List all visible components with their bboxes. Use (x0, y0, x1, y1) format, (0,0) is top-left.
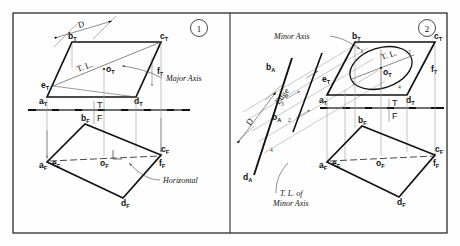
ellipse-point-2: 2 (408, 49, 411, 55)
fold-label-F-2: F (392, 111, 398, 121)
tl-minor-axis-line1: T. L. of (280, 189, 304, 198)
figure-sheet: 1 D bT cT aT dT eT fT oT T. L. Major Axi (0, 0, 460, 246)
aux-point-4: 4 (270, 147, 273, 153)
aux-point-3: 3 (281, 101, 284, 107)
panel-1-number: 1 (197, 24, 202, 34)
aux-point-2: 2 (288, 117, 291, 123)
fold-label-F-1: F (97, 113, 103, 123)
center-oT-2 (380, 67, 382, 69)
tl-minor-axis-line2: Minor Axis (272, 199, 309, 208)
ellipse-point-3: 3 (360, 48, 363, 54)
panel-2-number: 2 (425, 24, 430, 34)
minor-axis-label: Minor Axis (273, 32, 310, 41)
fold-label-T-2: T (392, 98, 398, 108)
ellipse-point-4: 4 (398, 84, 401, 90)
fold-label-T-1: T (97, 100, 103, 110)
horizontal-label: Horizontal (162, 176, 198, 185)
major-axis-label: Major Axis (165, 74, 202, 83)
ellipse-point-1: 1 (352, 80, 355, 86)
center-oT-1 (103, 68, 105, 70)
